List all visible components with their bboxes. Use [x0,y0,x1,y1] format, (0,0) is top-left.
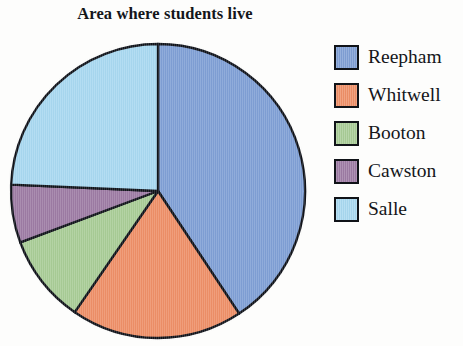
legend-item-booton[interactable]: Booton [334,114,463,152]
pie-chart-svg [8,41,308,341]
legend-label: Reepham [368,47,442,67]
legend: ReephamWhitwellBootonCawstonSalle [334,38,463,228]
legend-item-whitwell[interactable]: Whitwell [334,76,463,114]
pie-chart-figure: Area where students live ReephamWhitwell… [0,0,463,346]
pie-slice-salle[interactable] [11,44,158,191]
legend-label: Booton [368,123,425,143]
legend-item-salle[interactable]: Salle [334,190,463,228]
legend-item-cawston[interactable]: Cawston [334,152,463,190]
legend-label: Salle [368,199,407,219]
legend-label: Whitwell [368,85,441,105]
legend-swatch-salle [334,197,359,222]
legend-swatch-reepham [334,45,359,70]
legend-label: Cawston [368,161,436,181]
legend-swatch-whitwell [334,83,359,108]
legend-swatch-booton [334,121,359,146]
legend-swatch-cawston [334,159,359,184]
pie-chart [8,41,308,341]
legend-item-reepham[interactable]: Reepham [334,38,463,76]
pie-slices [11,44,305,338]
chart-title: Area where students live [0,4,330,24]
